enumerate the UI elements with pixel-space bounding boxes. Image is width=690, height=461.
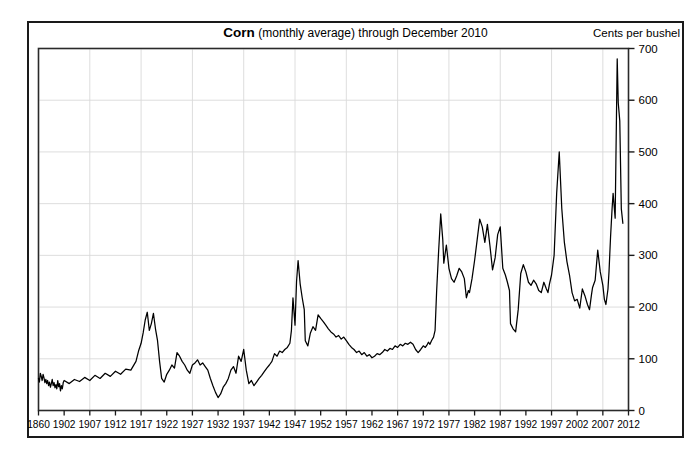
svg-text:700: 700: [639, 43, 658, 55]
svg-text:1977: 1977: [438, 419, 461, 430]
y-axis-tick-labels: 0100200300400500600700: [639, 43, 658, 417]
svg-text:1917: 1917: [130, 419, 153, 430]
svg-text:1952: 1952: [309, 419, 332, 430]
svg-text:1967: 1967: [386, 419, 409, 430]
svg-text:1907: 1907: [78, 419, 101, 430]
svg-text:1932: 1932: [207, 419, 230, 430]
y-axis-ticks: [629, 49, 635, 411]
chart-plot-area: 0100200300400500600700 18601902190719121…: [0, 0, 690, 461]
svg-text:1957: 1957: [335, 419, 358, 430]
svg-text:1947: 1947: [284, 419, 307, 430]
svg-text:1912: 1912: [104, 419, 127, 430]
svg-text:0: 0: [639, 405, 645, 417]
svg-text:300: 300: [639, 249, 658, 261]
svg-text:500: 500: [639, 146, 658, 158]
svg-text:1927: 1927: [181, 419, 204, 430]
x-axis-tick-labels: 1860190219071912191719221927193219371942…: [27, 419, 640, 430]
svg-text:1987: 1987: [489, 419, 512, 430]
svg-text:600: 600: [639, 94, 658, 106]
svg-text:1992: 1992: [515, 419, 538, 430]
svg-text:2012: 2012: [617, 419, 640, 430]
plot-frame: [39, 49, 629, 411]
svg-text:2007: 2007: [592, 419, 615, 430]
svg-text:1982: 1982: [463, 419, 486, 430]
svg-text:100: 100: [639, 353, 658, 365]
svg-text:1922: 1922: [155, 419, 178, 430]
svg-text:1942: 1942: [258, 419, 281, 430]
svg-text:1902: 1902: [53, 419, 76, 430]
svg-text:1962: 1962: [361, 419, 384, 430]
grid-lines: [40, 50, 628, 410]
svg-text:2002: 2002: [566, 419, 589, 430]
corn-price-chart: Corn (monthly average) through December …: [0, 0, 690, 461]
svg-text:400: 400: [639, 198, 658, 210]
svg-text:1860: 1860: [27, 419, 50, 430]
svg-text:1937: 1937: [232, 419, 255, 430]
data-series-corn-price: [39, 59, 623, 398]
svg-text:200: 200: [639, 301, 658, 313]
svg-text:1972: 1972: [412, 419, 435, 430]
svg-text:1997: 1997: [540, 419, 563, 430]
